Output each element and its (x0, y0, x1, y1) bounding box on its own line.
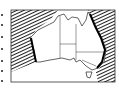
australia-map (0, 0, 119, 91)
